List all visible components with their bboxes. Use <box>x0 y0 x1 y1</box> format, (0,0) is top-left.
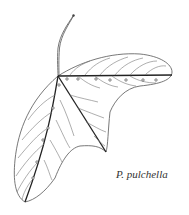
species-caption: P. pulchella <box>116 168 168 180</box>
leaf-illustration <box>0 0 189 215</box>
petiole <box>58 14 75 76</box>
midribs <box>25 75 172 202</box>
sori-dots <box>32 78 157 179</box>
